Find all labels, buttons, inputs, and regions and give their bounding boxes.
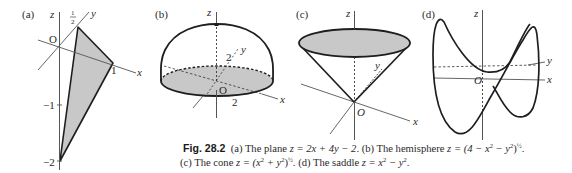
x-axis-d [433,78,545,80]
y-label-b: y [240,43,246,55]
svg-text:1: 1 [71,9,75,17]
tick-label-one: 1 [111,64,117,76]
caption-b-eq-open: z = (4 − x [447,143,490,154]
caption-b-eq-mid: − y [493,143,510,154]
y-label-c: y [374,59,380,71]
y-axis-d [434,65,537,67]
caption-d-prefix: . (d) The saddle [293,157,362,168]
x-axis-b-outer [262,94,278,99]
x-label-a: x [136,66,142,78]
z-label-d: z [473,7,479,19]
tick-label-half: 1 2 [70,9,76,26]
y-label-a: y [90,7,96,19]
caption-c-eq-open: z = (x [236,157,261,168]
panel-label-d: (d) [422,8,435,21]
caption-line-1: Fig. 28.2 (a) The plane z = 2x + 4y − 2.… [180,141,570,156]
y-label-d: y [546,54,552,66]
panel-label-b: (b) [155,8,168,21]
caption-d-eq-open: z = x [362,157,383,168]
panel-a: (a) z y x O 1 2 1 −1 −2 [22,7,142,170]
svg-text:2: 2 [71,18,75,26]
caption-dot: . [522,143,525,154]
x-label-c: x [412,115,418,127]
caption-c-eq-mid: + y [264,157,281,168]
panel-d: (d) z y x O [422,7,552,140]
panel-label-a: (a) [22,8,35,21]
y-axis-c-lower [330,102,354,134]
caption-line-2: (c) The cone z = (x2 + y2)½. (d) The sad… [180,156,570,170]
caption-dot: . [407,157,410,168]
caption-a-prefix: (a) The plane [231,143,290,154]
figure-caption: Fig. 28.2 (a) The plane z = 2x + 4y − 2.… [180,141,570,170]
tick-label-minus1: −1 [43,99,55,111]
panel-label-c: (c) [296,8,309,21]
y-axis-b-outer [193,96,203,108]
tick-label-minus2: −2 [43,156,55,168]
origin-label-b: O [219,84,227,96]
z-label-b: z [206,6,212,18]
dome-top-marker [215,23,219,26]
panel-c: (c) z y O x [296,7,418,140]
origin-label-a: O [49,33,57,45]
x-label-d: x [546,73,552,85]
x-label-b: x [279,93,285,105]
panel-b: (b) z y 2 O 2 x [155,6,285,118]
x-axis-c [301,84,410,121]
origin-label-d: O [474,74,482,86]
caption-d-eq-mid: − y [386,157,403,168]
tick-label-x2: 2 [232,96,238,108]
plane-triangle [60,27,113,161]
cone-top [299,29,410,57]
z-label-a: z [49,8,55,20]
z-label-c: z [345,7,351,19]
tick-label-y2: 2 [226,51,232,63]
figure-number: Fig. 28.2 [183,142,225,154]
caption-b-prefix: . (b) The hemisphere [356,143,447,154]
caption-a-equation: z = 2x + 4y − 2 [290,143,357,154]
caption-c-prefix: (c) The cone [180,157,236,168]
origin-label-c: O [357,106,365,118]
